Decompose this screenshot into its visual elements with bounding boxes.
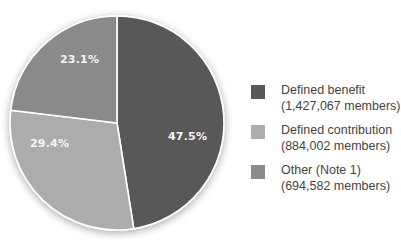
pie-svg [0,0,240,249]
legend-members: (694,582 members) [281,178,390,194]
pie-chart: 47.5% 29.4% 23.1% [0,0,240,249]
pie-slice-other-note-1 [11,16,117,123]
legend-label: Defined contribution [281,122,392,138]
legend-members: (1,427,067 members) [281,98,401,114]
slice-label-other: 23.1% [60,53,99,66]
legend-swatch-icon [251,165,265,179]
legend-label: Other (Note 1) [281,162,390,178]
slice-label-defined-contribution: 29.4% [30,137,69,150]
legend-swatch-icon [251,85,265,99]
legend-label: Defined benefit [281,82,401,98]
slice-label-defined-benefit: 47.5% [168,130,207,143]
legend-swatch-icon [251,125,265,139]
pie-slice-defined-contribution [10,110,134,230]
legend-members: (884,002 members) [281,138,392,154]
pie-slice-defined-benefit [117,16,224,229]
